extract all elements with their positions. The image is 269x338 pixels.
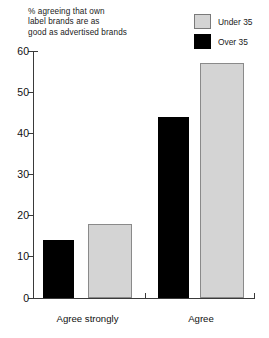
legend-item-under-35: Under 35 xyxy=(194,13,268,30)
bar-agree-strongly-over-35 xyxy=(43,240,74,298)
bar-agree-under-35 xyxy=(200,63,244,298)
category-label-agree-strongly: Agree strongly xyxy=(57,313,119,324)
y-tick-40: 40 xyxy=(33,133,38,134)
legend-item-over-35: Over 35 xyxy=(194,33,268,50)
legend-swatch-over-35 xyxy=(194,34,211,49)
chart-title-line-3: good as advertised brands xyxy=(28,28,168,38)
y-tick-20: 20 xyxy=(33,215,38,216)
y-tick-label: 0 xyxy=(23,292,29,304)
category-label-agree: Agree xyxy=(188,313,214,324)
y-tick-label: 50 xyxy=(17,86,29,98)
legend-label-under-35: Under 35 xyxy=(218,17,252,27)
y-tick-30: 30 xyxy=(33,174,38,175)
legend-swatch-under-35 xyxy=(194,14,211,29)
bar-chart: % agreeing that own label brands are as … xyxy=(0,0,269,338)
y-tick-label: 30 xyxy=(17,168,29,180)
bar-agree-strongly-under-35 xyxy=(88,224,132,298)
chart-title-line-2: label brands are as xyxy=(28,17,168,27)
chart-legend: Under 35 Over 35 xyxy=(194,13,268,53)
chart-title-line-1: % agreeing that own xyxy=(28,7,168,17)
y-tick-label: 20 xyxy=(17,209,29,221)
legend-label-over-35: Over 35 xyxy=(218,37,248,47)
chart-title: % agreeing that own label brands are as … xyxy=(28,7,168,38)
plot-area: 0102030405060 xyxy=(33,51,255,299)
bar-agree-over-35 xyxy=(158,117,189,298)
x-axis-right-cap xyxy=(254,293,255,299)
y-tick-50: 50 xyxy=(33,92,38,93)
y-tick-label: 60 xyxy=(17,45,29,57)
y-axis-line xyxy=(33,51,34,299)
y-tick-0: 0 xyxy=(33,298,38,299)
y-tick-10: 10 xyxy=(33,256,38,257)
y-tick-60: 60 xyxy=(33,51,38,52)
x-axis-line xyxy=(33,298,255,299)
x-axis-group-separator xyxy=(145,293,146,299)
y-tick-label: 40 xyxy=(17,127,29,139)
y-tick-label: 10 xyxy=(17,250,29,262)
